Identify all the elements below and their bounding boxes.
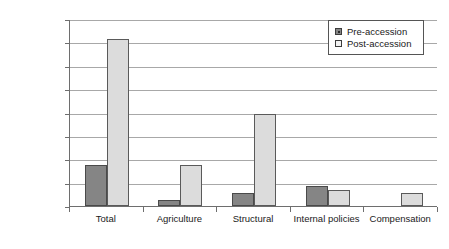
bar — [232, 193, 254, 206]
bar — [107, 39, 129, 206]
x-axis-tick — [437, 207, 438, 212]
x-axis-tick-label: Agriculture — [143, 214, 217, 224]
x-axis-tick — [216, 207, 217, 212]
bar-group — [158, 20, 202, 206]
x-axis-tick-label: Structural — [216, 214, 290, 224]
x-axis-tick-label: Total — [69, 214, 143, 224]
legend-label-pre-accession: Pre-accession — [347, 27, 407, 37]
bar — [180, 165, 202, 206]
bar-chart: 0 €2,000 €4,000€6,000 €8,000 €10,000 €12… — [0, 0, 449, 249]
bar — [254, 114, 276, 206]
x-axis-tick — [363, 207, 364, 212]
x-axis-tick — [143, 207, 144, 212]
legend-item-pre-accession: Pre-accession — [335, 26, 418, 37]
bar-group — [85, 20, 129, 206]
x-axis-tick — [69, 207, 70, 212]
legend-item-post-accession: Post-accession — [335, 38, 418, 49]
legend-swatch-post-accession — [335, 40, 342, 47]
x-axis-tick-label: Compensation — [363, 214, 437, 224]
legend-swatch-pre-accession — [335, 28, 342, 35]
x-axis-tick — [290, 207, 291, 212]
x-axis-tick-label: Internal policies — [290, 214, 364, 224]
bar — [306, 186, 328, 206]
bar-group — [232, 20, 276, 206]
chart-legend: Pre-accession Post-accession — [328, 20, 424, 55]
bar — [85, 165, 107, 206]
bar — [401, 193, 423, 206]
legend-label-post-accession: Post-accession — [347, 39, 411, 49]
bar — [328, 190, 350, 206]
bar — [158, 200, 180, 206]
